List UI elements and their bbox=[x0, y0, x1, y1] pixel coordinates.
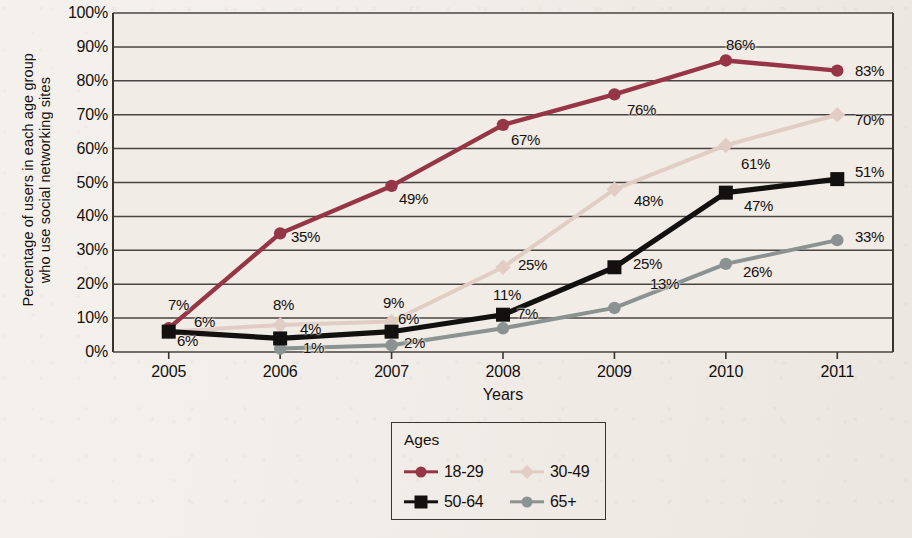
data-label-18-29-7: 7% bbox=[168, 296, 189, 313]
x-axis-title: Years bbox=[483, 386, 523, 404]
data-label-65+-7: 7% bbox=[517, 305, 538, 322]
data-label-65+-33: 33% bbox=[855, 228, 884, 245]
legend-title: Ages bbox=[404, 431, 439, 449]
marker-65+ bbox=[385, 339, 397, 351]
marker-50-64 bbox=[830, 172, 844, 186]
marker-18-29 bbox=[720, 54, 732, 66]
data-label-30-49-8: 8% bbox=[273, 296, 294, 313]
marker-50-64 bbox=[385, 325, 399, 339]
legend-entry-65+[interactable]: 65+ bbox=[510, 493, 576, 511]
data-label-65+-2: 2% bbox=[404, 334, 425, 351]
x-axis-tick-2008: 2008 bbox=[486, 363, 521, 381]
data-label-50-64-51: 51% bbox=[855, 163, 884, 180]
data-label-30-49-25: 25% bbox=[518, 256, 547, 273]
data-label-50-64-11: 11% bbox=[493, 286, 521, 303]
legend-swatch-65+ bbox=[510, 495, 544, 509]
data-label-18-29-83: 83% bbox=[855, 62, 884, 79]
x-axis-tick-2007: 2007 bbox=[374, 363, 409, 381]
marker-50-64 bbox=[607, 260, 621, 274]
x-axis-tick-2011: 2011 bbox=[820, 363, 854, 381]
marker-50-64 bbox=[496, 308, 510, 322]
data-label-30-49-6: 6% bbox=[194, 313, 215, 330]
x-axis-tick-2005: 2005 bbox=[151, 363, 186, 381]
legend-label-50-64: 50-64 bbox=[444, 493, 483, 511]
marker-65+ bbox=[608, 302, 620, 314]
data-label-18-29-49: 49% bbox=[399, 190, 428, 207]
data-label-65+-26: 26% bbox=[743, 263, 772, 280]
legend-entry-18-29[interactable]: 18-29 bbox=[404, 463, 483, 481]
x-axis-tick-2006: 2006 bbox=[263, 363, 298, 381]
line-chart: Percentage of users in each age group wh… bbox=[0, 0, 912, 538]
marker-50-64 bbox=[719, 186, 733, 200]
marker-50-64 bbox=[273, 331, 287, 345]
data-label-50-64-6: 6% bbox=[177, 332, 198, 349]
data-label-18-29-86: 86% bbox=[726, 36, 755, 53]
data-label-30-49-70: 70% bbox=[855, 111, 884, 128]
marker-65+ bbox=[497, 322, 509, 334]
legend: Ages 18-2930-4950-6465+ bbox=[391, 422, 606, 520]
legend-marker-circle-icon bbox=[416, 467, 427, 478]
data-label-18-29-67: 67% bbox=[511, 131, 540, 148]
legend-swatch-50-64 bbox=[404, 495, 438, 509]
data-label-50-64-25: 25% bbox=[633, 255, 662, 272]
data-label-30-49-9: 9% bbox=[383, 294, 404, 311]
marker-18-29 bbox=[274, 227, 286, 239]
legend-label-65+: 65+ bbox=[550, 493, 576, 511]
legend-entry-30-49[interactable]: 30-49 bbox=[510, 463, 589, 481]
data-label-18-29-76: 76% bbox=[627, 101, 656, 118]
legend-marker-diamond-icon bbox=[520, 465, 534, 479]
data-label-65+-13: 13% bbox=[650, 275, 679, 292]
data-label-50-64-6: 6% bbox=[398, 310, 419, 327]
marker-18-29 bbox=[497, 119, 509, 131]
x-axis-tick-2009: 2009 bbox=[597, 363, 632, 381]
data-label-30-49-48: 48% bbox=[634, 192, 663, 209]
marker-65+ bbox=[831, 234, 843, 246]
legend-marker-square-icon bbox=[415, 496, 428, 509]
data-label-50-64-4: 4% bbox=[300, 320, 321, 337]
data-label-18-29-35: 35% bbox=[291, 228, 320, 245]
data-label-30-49-61: 61% bbox=[741, 155, 770, 172]
legend-swatch-18-29 bbox=[404, 465, 438, 479]
marker-18-29 bbox=[831, 64, 843, 76]
legend-label-30-49: 30-49 bbox=[550, 463, 589, 481]
legend-label-18-29: 18-29 bbox=[444, 463, 483, 481]
x-axis-tick-2010: 2010 bbox=[708, 363, 743, 381]
marker-50-64 bbox=[162, 325, 176, 339]
marker-18-29 bbox=[385, 180, 397, 192]
marker-18-29 bbox=[608, 88, 620, 100]
data-label-50-64-47: 47% bbox=[744, 197, 773, 214]
marker-65+ bbox=[720, 258, 732, 270]
legend-swatch-30-49 bbox=[510, 465, 544, 479]
data-label-65+-1: 1% bbox=[303, 339, 324, 356]
legend-entry-50-64[interactable]: 50-64 bbox=[404, 493, 483, 511]
legend-marker-circle-icon bbox=[522, 497, 533, 508]
